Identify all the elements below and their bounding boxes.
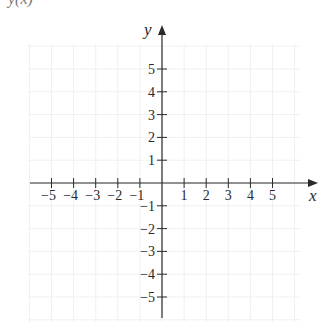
x-tick-label: 2	[203, 188, 210, 203]
caption-fragment: y(x)	[6, 0, 33, 8]
y-tick-label: −5	[140, 290, 155, 305]
y-tick-label: −4	[140, 267, 155, 282]
y-tick-label: 3	[148, 108, 155, 123]
y-axis-label: y	[142, 20, 152, 39]
y-tick-label: −1	[140, 199, 155, 214]
x-tick-label: −4	[63, 188, 78, 203]
y-tick-label: 5	[148, 62, 155, 77]
x-tick-label: −2	[107, 188, 122, 203]
coordinate-plane: y(x) −5−4−3−2−11234554321−1−2−3−4−5 x y	[0, 0, 333, 331]
x-tick-label: 5	[269, 188, 276, 203]
x-tick-label: −5	[41, 188, 56, 203]
x-tick-label: 1	[181, 188, 188, 203]
y-tick-label: −2	[140, 222, 155, 237]
y-tick-label: 2	[148, 130, 155, 145]
x-tick-label: −3	[85, 188, 100, 203]
x-tick-label: 3	[225, 188, 232, 203]
y-axis-arrow-icon	[158, 25, 166, 35]
x-axis-label: x	[308, 186, 317, 205]
x-tick-label: 4	[247, 188, 254, 203]
y-tick-label: 4	[148, 85, 155, 100]
y-tick-label: 1	[148, 153, 155, 168]
y-tick-label: −3	[140, 244, 155, 259]
